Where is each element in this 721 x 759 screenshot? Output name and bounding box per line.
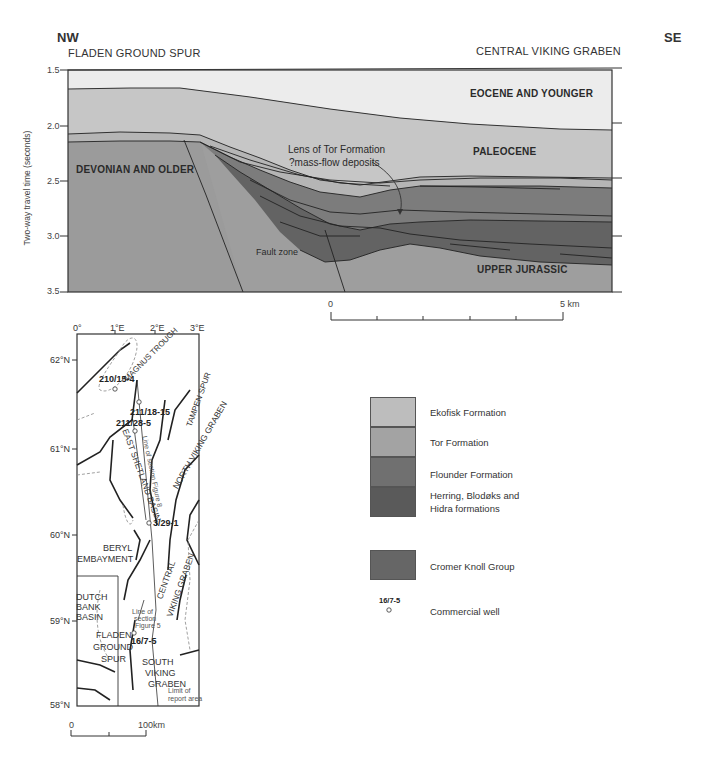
legend-label-flounder: Flounder Formation <box>430 468 513 481</box>
legend-item-flounder: Flounder Formation <box>370 457 670 487</box>
label-dutch: DUTCH <box>76 592 108 602</box>
legend-label-commercial-well: Commercial well <box>430 605 500 618</box>
label-section: section <box>134 615 156 622</box>
well-circle-icon <box>383 606 403 626</box>
legend-swatch-ekofisk <box>370 397 416 427</box>
legend-label-cromer-knoll: Cromer Knoll Group <box>430 560 514 573</box>
legend-item-tor: Tor Formation <box>370 427 670 457</box>
legend-well-id: 16/7-5 <box>379 596 400 605</box>
label-bank: BANK <box>76 602 101 612</box>
legend-label-tor: Tor Formation <box>430 436 489 449</box>
label-basin: BASIN <box>76 612 103 622</box>
label-line-of: Line of <box>132 608 153 615</box>
label-figure-5: Figure 5 <box>135 622 161 629</box>
label-fladen: FLADEN <box>96 630 132 640</box>
well-3-29-1: 3/29-1 <box>153 518 179 528</box>
legend-label-ekofisk: Ekofisk Formation <box>430 406 506 419</box>
well-211-18-15: 211/18-15 <box>130 407 170 417</box>
legend-swatch-cromer-knoll <box>370 550 416 580</box>
label-embayment: EMBAYMENT <box>77 554 133 564</box>
map-scale-start: 0 <box>69 720 74 730</box>
label-ground: GROUND <box>93 642 133 652</box>
label-limit-of: Limit of <box>168 687 191 694</box>
legend-item-commercial-well: 16/7-5 Commercial well <box>370 596 670 626</box>
legend-swatch-tor <box>370 427 416 457</box>
well-210-15-4: 210/15-4 <box>99 374 135 384</box>
legend-item-ekofisk: Ekofisk Formation <box>370 397 670 427</box>
well-211-28-5: 211/28-5 <box>116 418 151 428</box>
legend-item-herring: Herring, Blodøks and Hidra formations <box>370 487 670 517</box>
label-viking: VIKING <box>145 668 176 678</box>
label-beryl: BERYL <box>103 543 132 553</box>
label-spur: SPUR <box>101 654 126 664</box>
legend-label-herring-line2: Hidra formations <box>430 502 500 515</box>
well-16-7-5: 16/7-5 <box>131 636 157 646</box>
legend-label-herring-line1: Herring, Blodøks and <box>430 489 519 502</box>
label-report-area: report area <box>168 695 202 702</box>
legend-swatch-flounder <box>370 457 416 487</box>
map-scale-end: 100km <box>138 720 165 730</box>
legend-item-cromer-knoll: Cromer Knoll Group <box>370 550 670 580</box>
label-south: SOUTH <box>142 657 174 667</box>
legend-swatch-herring <box>370 487 416 517</box>
